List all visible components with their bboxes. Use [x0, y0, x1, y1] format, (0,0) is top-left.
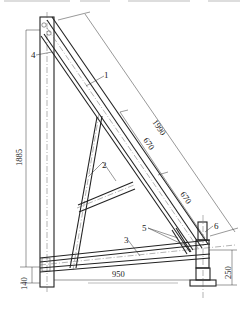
part-label-5: 5 — [142, 223, 147, 233]
dim-base-offset: 140 — [19, 277, 29, 290]
part-label-4: 4 — [31, 50, 36, 60]
support-column — [190, 215, 216, 300]
dim-horizontal-span: 950 — [112, 269, 125, 279]
part-label-3: 3 — [124, 235, 129, 245]
inner-struts — [70, 114, 135, 270]
part-label-1: 1 — [104, 70, 109, 80]
dim-diagonal-upper: 670 — [141, 136, 156, 152]
dim-vertical-height: 1885 — [14, 149, 24, 166]
part-label-2: 2 — [102, 160, 107, 170]
dim-diagonal-total: 1990 — [150, 118, 168, 138]
part-label-6: 6 — [214, 221, 219, 231]
bracket-frame-diagram: 4 1 2 3 5 6 1990 670 670 1885 140 950 25… — [0, 0, 243, 312]
dim-support-height: 250 — [223, 266, 233, 279]
diagonal-member — [41, 17, 208, 252]
bottom-beam — [40, 240, 235, 272]
